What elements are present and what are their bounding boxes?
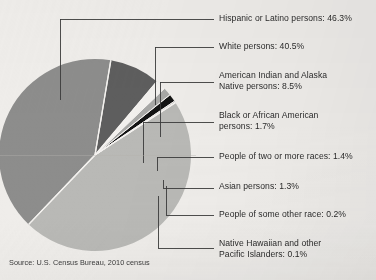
callout-label-black-or-african-american: Black or African American persons: 1.7% (219, 110, 318, 132)
callout-label-american-indian-alaska-native: American Indian and Alaska Native person… (219, 70, 327, 92)
callout-label-asian: Asian persons: 1.3% (219, 181, 299, 192)
callout-label-native-hawaiian-pacific-islander: Native Hawaiian and other Pacific Island… (219, 238, 321, 260)
callout-label-two-or-more-races: People of two or more races: 1.4% (219, 151, 353, 162)
callout-label-some-other-race: People of some other race: 0.2% (219, 209, 346, 220)
callout-label-white: White persons: 40.5% (219, 41, 304, 52)
pie-chart-figure: Hispanic or Latino persons: 46.3% White … (0, 0, 376, 280)
source-note: Source: U.S. Census Bureau, 2010 census (9, 258, 150, 267)
callout-label-hispanic-or-latino: Hispanic or Latino persons: 46.3% (219, 13, 352, 24)
